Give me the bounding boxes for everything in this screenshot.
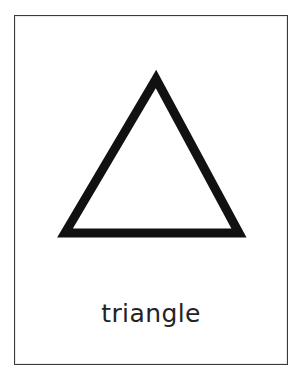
shape-illustration-area <box>15 62 289 252</box>
triangle-shape <box>65 79 239 233</box>
caption-area: triangle <box>15 288 287 338</box>
triangle-outline-icon <box>15 62 289 252</box>
flashcard-border-frame: triangle <box>14 15 288 365</box>
shape-caption-label: triangle <box>101 301 201 326</box>
flashcard-page: triangle <box>0 0 302 387</box>
